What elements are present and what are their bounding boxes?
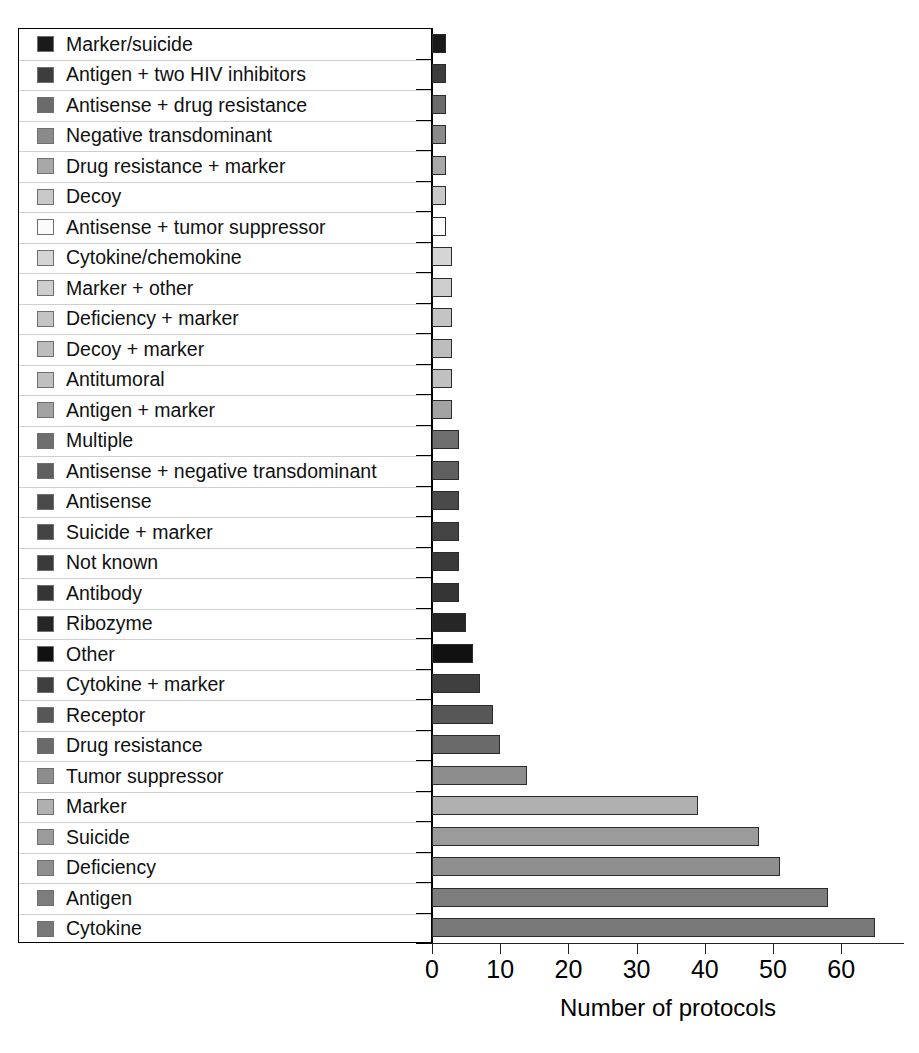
bar	[432, 247, 452, 266]
x-axis-tick-label: 50	[743, 957, 803, 982]
x-axis-tick-label: 0	[402, 957, 462, 982]
legend-row-divider	[19, 90, 431, 91]
legend-item-label: Antigen	[66, 889, 132, 909]
legend-swatch-icon	[37, 280, 54, 296]
category-axis-tick	[416, 669, 432, 670]
legend-item-label: Antibody	[66, 584, 142, 604]
legend-item: Cytokine + marker	[19, 670, 431, 701]
legend-item: Antisense	[19, 487, 431, 518]
legend-row-divider	[19, 121, 431, 122]
bar	[432, 430, 459, 449]
x-axis-tick	[841, 943, 842, 954]
legend-swatch-icon	[37, 860, 54, 876]
legend-row-divider	[19, 883, 431, 884]
bar	[432, 674, 480, 693]
legend-item: Marker + other	[19, 273, 431, 304]
legend-swatch-icon	[37, 372, 54, 388]
legend-item-label: Antitumoral	[66, 370, 165, 390]
bar	[432, 857, 780, 876]
x-axis-tick	[773, 943, 774, 954]
legend-item-label: Not known	[66, 553, 158, 573]
category-axis-tick	[416, 181, 432, 182]
legend-row-divider	[19, 792, 431, 793]
bar	[432, 461, 459, 480]
legend-item-label: Negative transdominant	[66, 126, 272, 146]
legend-swatch-icon	[37, 494, 54, 510]
legend-swatch-icon	[37, 67, 54, 83]
category-axis-tick	[416, 333, 432, 334]
legend-swatch-icon	[37, 311, 54, 327]
category-axis-tick	[416, 608, 432, 609]
legend-item-label: Multiple	[66, 431, 133, 451]
bar	[432, 522, 459, 541]
legend-swatch-icon	[37, 707, 54, 723]
category-axis-tick	[416, 486, 432, 487]
legend-item: Marker/suicide	[19, 29, 431, 60]
bar	[432, 369, 452, 388]
legend-item: Antigen + two HIV inhibitors	[19, 60, 431, 91]
bar	[432, 918, 875, 937]
bar	[432, 766, 527, 785]
legend-item-label: Other	[66, 645, 115, 665]
legend-item-label: Cytokine	[66, 919, 142, 939]
legend-row-divider	[19, 731, 431, 732]
legend-row-divider	[19, 395, 431, 396]
legend-swatch-icon	[37, 433, 54, 449]
legend-item: Deficiency	[19, 853, 431, 884]
legend-item: Multiple	[19, 426, 431, 457]
legend-swatch-icon	[37, 97, 54, 113]
legend-item-label: Antisense + negative transdominant	[66, 462, 377, 482]
legend-swatch-icon	[37, 189, 54, 205]
legend-item-label: Ribozyme	[66, 614, 153, 634]
legend-item: Cytokine/chemokine	[19, 243, 431, 274]
legend-row-divider	[19, 761, 431, 762]
x-axis-tick-label: 30	[607, 957, 667, 982]
category-axis-tick	[416, 272, 432, 273]
x-axis-tick	[500, 943, 501, 954]
x-axis-tick	[705, 943, 706, 954]
bar	[432, 125, 446, 144]
legend-swatch-icon	[37, 36, 54, 52]
category-axis-tick	[416, 211, 432, 212]
category-axis-tick	[416, 730, 432, 731]
legend-item-label: Receptor	[66, 706, 145, 726]
category-axis-tick	[416, 242, 432, 243]
bar	[432, 34, 446, 53]
x-axis-tick-label: 40	[675, 957, 735, 982]
category-axis-tick	[416, 791, 432, 792]
legend-item: Not known	[19, 548, 431, 579]
bar	[432, 613, 466, 632]
category-axis-tick	[416, 59, 432, 60]
legend-row-divider	[19, 273, 431, 274]
legend-item-label: Suicide	[66, 828, 130, 848]
x-axis-tick	[637, 943, 638, 954]
legend-item: Cytokine	[19, 914, 431, 945]
legend-row-divider	[19, 151, 431, 152]
bar-chart: Marker/suicideAntigen + two HIV inhibito…	[0, 0, 919, 1053]
legend-row-divider	[19, 487, 431, 488]
category-axis-tick	[416, 89, 432, 90]
legend-swatch-icon	[37, 158, 54, 174]
legend-item: Receptor	[19, 700, 431, 731]
legend-row-divider	[19, 60, 431, 61]
x-axis-tick	[568, 943, 569, 954]
legend-swatch-icon	[37, 250, 54, 266]
legend-row-divider	[19, 212, 431, 213]
legend-item: Antisense + drug resistance	[19, 90, 431, 121]
bar	[432, 156, 446, 175]
x-axis-tick-label: 60	[811, 957, 871, 982]
bar	[432, 308, 452, 327]
legend-item-label: Decoy + marker	[66, 340, 204, 360]
category-axis-tick	[416, 425, 432, 426]
legend-item: Suicide	[19, 822, 431, 853]
legend-item: Decoy + marker	[19, 334, 431, 365]
category-axis-tick	[416, 913, 432, 914]
legend-item: Drug resistance	[19, 731, 431, 762]
legend-swatch-icon	[37, 829, 54, 845]
legend-row-divider	[19, 304, 431, 305]
legend-row-divider	[19, 700, 431, 701]
legend-item: Antibody	[19, 578, 431, 609]
legend-item: Deficiency + marker	[19, 304, 431, 335]
legend-item: Marker	[19, 792, 431, 823]
bar	[432, 705, 493, 724]
